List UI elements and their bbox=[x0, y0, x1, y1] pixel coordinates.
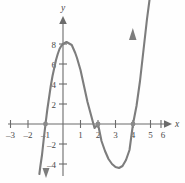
curve-arrowhead-up-right bbox=[129, 28, 137, 40]
x-tick-label--3: –3 bbox=[5, 130, 16, 140]
y-tick-label-2: 2 bbox=[52, 100, 57, 110]
x-axis bbox=[8, 120, 172, 128]
y-axis-arrowhead bbox=[59, 16, 67, 24]
y-tick-label--2: –2 bbox=[46, 140, 56, 150]
x-intercept-dot bbox=[43, 122, 48, 127]
x-tick-label-1: 1 bbox=[78, 130, 83, 140]
y-axis-label: y bbox=[60, 3, 66, 13]
x-intercept-dot bbox=[96, 122, 101, 127]
x-tick-label--2: –2 bbox=[23, 130, 33, 140]
x-tick-labels: –3 –2 –1 1 2 3 4 5 6 bbox=[5, 130, 166, 140]
x-axis-label: x bbox=[174, 119, 180, 129]
x-axis-arrowhead bbox=[164, 120, 172, 128]
x-tick-label-5: 5 bbox=[148, 130, 153, 140]
coordinate-plane-svg: –3 –2 –1 1 2 3 4 5 6 2 4 6 8 –2 –4 x y bbox=[0, 0, 185, 183]
curve-arrowhead-down-left bbox=[43, 168, 50, 178]
y-axis bbox=[59, 16, 67, 176]
x-tick-label-3: 3 bbox=[113, 130, 118, 140]
y-tick-label-8: 8 bbox=[52, 40, 57, 50]
graph-figure: –3 –2 –1 1 2 3 4 5 6 2 4 6 8 –2 –4 x y bbox=[0, 0, 185, 183]
x-intercept-dot bbox=[131, 122, 136, 127]
x-tick-label-6: 6 bbox=[161, 130, 166, 140]
